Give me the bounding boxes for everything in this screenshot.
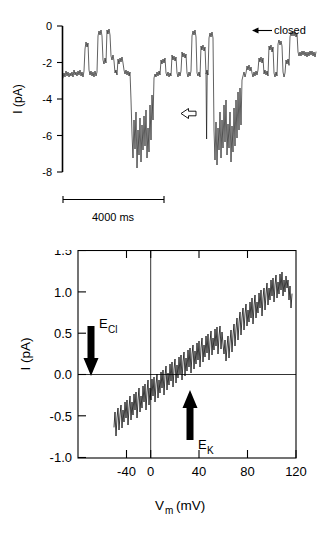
iv-y-ticks	[78, 251, 86, 458]
closed-label: closed	[274, 24, 306, 36]
bottom-panel-svg: 1.5 1.0 0.5 0.0 -0.5 -1.0 I (pA) -40	[0, 250, 327, 544]
top-current-trace	[63, 29, 289, 168]
closed-arrow-head-icon	[252, 28, 259, 34]
top-y-tick-label-2: -4	[42, 93, 52, 105]
top-y-ticks	[57, 26, 63, 172]
scalebar-label: 4000 ms	[92, 211, 135, 223]
ecl-label-sub: Cl	[108, 324, 117, 335]
iv-y-tick-label-5: -1.0	[50, 450, 72, 465]
iv-y-axis-title: I (pA)	[18, 337, 33, 370]
iv-y-tick-label-0: 1.5	[54, 250, 72, 258]
top-trace-deep-spike	[206, 74, 207, 139]
iv-x-tick-label-0: -40	[117, 464, 136, 479]
iv-y-tick-label-1: 1.0	[54, 285, 72, 300]
top-y-tick-label-1: -2	[42, 57, 52, 69]
iv-ek-marker: E K	[183, 390, 215, 456]
ek-label-main: E	[198, 437, 207, 452]
top-open-arrow-marker	[181, 109, 196, 119]
top-y-tick-label-3: -6	[42, 130, 52, 142]
panel-bottom-iv-relation: 1.5 1.0 0.5 0.0 -0.5 -1.0 I (pA) -40	[0, 250, 327, 544]
iv-y-tick-label-2: 0.5	[54, 326, 72, 341]
open-left-arrow-icon	[181, 109, 196, 119]
iv-y-tick-label-4: -0.5	[50, 409, 72, 424]
iv-x-axis-title-sub: m	[165, 505, 173, 516]
iv-x-tick-label-4: 120	[285, 464, 307, 479]
top-y-axis-title: I (pA)	[11, 84, 25, 113]
iv-current-trace	[114, 272, 292, 436]
ek-up-arrow-icon	[183, 390, 198, 440]
panel-top-single-channel-trace: 0 -2 -4 -6 -8 I (pA) closed	[0, 0, 327, 250]
ek-label-sub: K	[207, 445, 214, 456]
iv-x-axis-title-main: V	[155, 498, 164, 513]
top-closed-annotation: closed	[252, 24, 306, 36]
iv-y-tick-label-3: 0.0	[54, 367, 72, 382]
top-y-tick-label-0: 0	[46, 20, 52, 32]
iv-x-axis-title-unit: (mV)	[176, 498, 205, 513]
scalebar-shape	[63, 196, 164, 203]
figure-root: 0 -2 -4 -6 -8 I (pA) closed	[0, 0, 327, 544]
top-trace-closed-level-segment	[289, 31, 316, 65]
iv-x-axis-title: V m (mV)	[155, 498, 205, 516]
top-panel-svg: 0 -2 -4 -6 -8 I (pA) closed	[0, 0, 327, 250]
top-y-tick-label-4: -8	[42, 166, 52, 178]
iv-x-tick-label-2: 40	[192, 464, 206, 479]
iv-ecl-marker: E Cl	[84, 316, 118, 376]
iv-x-tick-label-1: 0	[147, 464, 154, 479]
ecl-label-main: E	[99, 316, 108, 331]
iv-x-tick-label-3: 80	[240, 464, 254, 479]
top-time-scalebar: 4000 ms	[63, 196, 164, 223]
